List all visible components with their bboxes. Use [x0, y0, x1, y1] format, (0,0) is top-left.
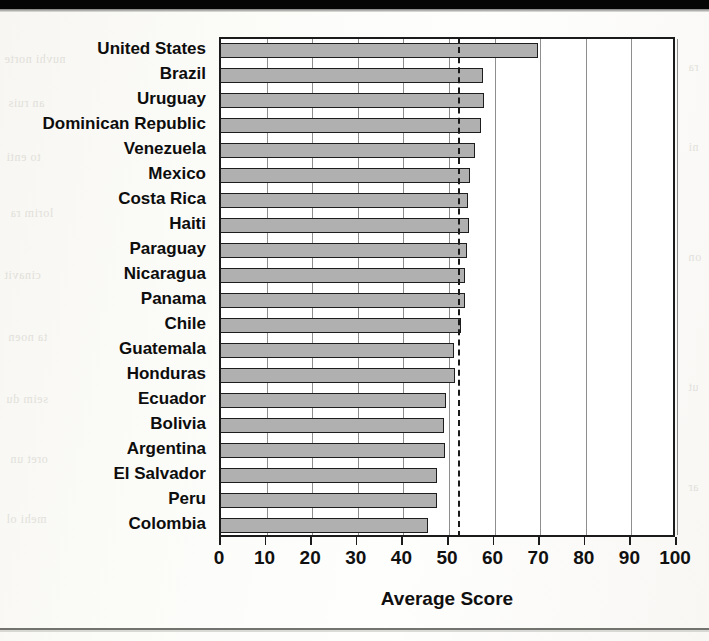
bar-guatemala[interactable]	[220, 343, 454, 358]
y-label-united-states: United States	[97, 37, 206, 60]
bar-chile[interactable]	[220, 318, 461, 333]
x-tick-90	[629, 537, 631, 545]
bar-chart-figure: United StatesBrazilUruguayDominican Repu…	[0, 0, 709, 641]
x-axis-tick-labels: 0102030405060708090100	[219, 547, 675, 569]
x-tick-label-20: 20	[300, 547, 321, 569]
bar-uruguay[interactable]	[220, 93, 484, 108]
bar-united-states[interactable]	[220, 43, 538, 58]
y-label-dominican-republic: Dominican Republic	[43, 112, 206, 135]
y-label-uruguay: Uruguay	[137, 87, 206, 110]
y-label-peru: Peru	[168, 487, 206, 510]
x-tick-label-10: 10	[254, 547, 275, 569]
bar-costa-rica[interactable]	[220, 193, 468, 208]
bar-row[interactable]	[221, 414, 677, 437]
bar-row[interactable]	[221, 39, 677, 62]
bar-row[interactable]	[221, 314, 677, 337]
bar-row[interactable]	[221, 289, 677, 312]
bar-row[interactable]	[221, 64, 677, 87]
bar-ecuador[interactable]	[220, 393, 446, 408]
plot-area	[219, 37, 675, 537]
y-label-haiti: Haiti	[169, 212, 206, 235]
y-label-brazil: Brazil	[160, 62, 206, 85]
y-label-chile: Chile	[164, 312, 206, 335]
bar-row[interactable]	[221, 89, 677, 112]
y-label-nicaragua: Nicaragua	[124, 262, 206, 285]
bar-row[interactable]	[221, 464, 677, 487]
bar-row[interactable]	[221, 489, 677, 512]
x-tick-60	[493, 537, 495, 545]
x-tick-label-30: 30	[345, 547, 366, 569]
x-tick-label-90: 90	[619, 547, 640, 569]
y-label-colombia: Colombia	[129, 512, 206, 535]
x-tick-10	[265, 537, 267, 545]
x-tick-80	[584, 537, 586, 545]
bar-bolivia[interactable]	[220, 418, 444, 433]
reference-line-dashed	[458, 37, 460, 537]
x-tick-label-100: 100	[659, 547, 691, 569]
x-tick-0	[219, 537, 221, 545]
x-tick-30	[356, 537, 358, 545]
x-tick-70	[538, 537, 540, 545]
bar-row[interactable]	[221, 214, 677, 237]
x-tick-40	[401, 537, 403, 545]
x-tick-label-80: 80	[573, 547, 594, 569]
y-axis-category-labels: United StatesBrazilUruguayDominican Repu…	[0, 37, 212, 537]
x-tick-label-60: 60	[482, 547, 503, 569]
bar-colombia[interactable]	[220, 518, 428, 533]
bar-argentina[interactable]	[220, 443, 445, 458]
x-tick-label-70: 70	[528, 547, 549, 569]
bar-nicaragua[interactable]	[220, 268, 465, 283]
bar-mexico[interactable]	[220, 168, 470, 183]
bar-row[interactable]	[221, 139, 677, 162]
bar-honduras[interactable]	[220, 368, 455, 383]
y-label-el-salvador: El Salvador	[113, 462, 206, 485]
x-tick-100	[675, 537, 677, 545]
gridline-100	[677, 39, 678, 535]
bar-paraguay[interactable]	[220, 243, 467, 258]
x-tick-label-0: 0	[214, 547, 225, 569]
y-label-paraguay: Paraguay	[129, 237, 206, 260]
x-tick-50	[447, 537, 449, 545]
bar-row[interactable]	[221, 339, 677, 362]
y-label-honduras: Honduras	[127, 362, 206, 385]
bar-row[interactable]	[221, 439, 677, 462]
y-label-argentina: Argentina	[127, 437, 206, 460]
x-tick-label-50: 50	[436, 547, 457, 569]
y-label-guatemala: Guatemala	[119, 337, 206, 360]
x-tick-20	[310, 537, 312, 545]
bars-layer	[221, 39, 677, 539]
y-label-costa-rica: Costa Rica	[118, 187, 206, 210]
x-tick-label-40: 40	[391, 547, 412, 569]
x-axis-title: Average Score	[219, 588, 675, 610]
bar-row[interactable]	[221, 264, 677, 287]
bar-row[interactable]	[221, 189, 677, 212]
y-label-ecuador: Ecuador	[138, 387, 206, 410]
bar-peru[interactable]	[220, 493, 437, 508]
bar-row[interactable]	[221, 114, 677, 137]
bar-el-salvador[interactable]	[220, 468, 437, 483]
bar-row[interactable]	[221, 389, 677, 412]
bar-row[interactable]	[221, 364, 677, 387]
bar-haiti[interactable]	[220, 218, 469, 233]
bar-row[interactable]	[221, 239, 677, 262]
y-label-bolivia: Bolivia	[150, 412, 206, 435]
y-label-mexico: Mexico	[148, 162, 206, 185]
bar-dominican-republic[interactable]	[220, 118, 481, 133]
y-label-panama: Panama	[141, 287, 206, 310]
bar-row[interactable]	[221, 164, 677, 187]
bar-venezuela[interactable]	[220, 143, 475, 158]
bar-panama[interactable]	[220, 293, 465, 308]
bar-brazil[interactable]	[220, 68, 483, 83]
bar-row[interactable]	[221, 514, 677, 537]
y-label-venezuela: Venezuela	[124, 137, 206, 160]
x-axis-ticks	[219, 537, 675, 545]
